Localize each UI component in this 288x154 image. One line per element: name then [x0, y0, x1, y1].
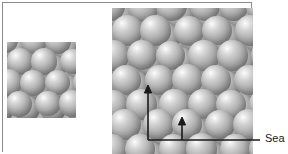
large-panel-front-layer — [112, 8, 253, 154]
sphere — [7, 91, 32, 117]
figure-root: Sea — [0, 0, 288, 154]
small-sphere-packing-panel — [7, 42, 76, 118]
sphere — [35, 91, 60, 116]
sphere — [59, 90, 76, 117]
small-panel-front-layer — [7, 42, 76, 118]
callout-label: Sea — [265, 132, 285, 145]
large-sphere-packing-panel — [112, 8, 253, 154]
